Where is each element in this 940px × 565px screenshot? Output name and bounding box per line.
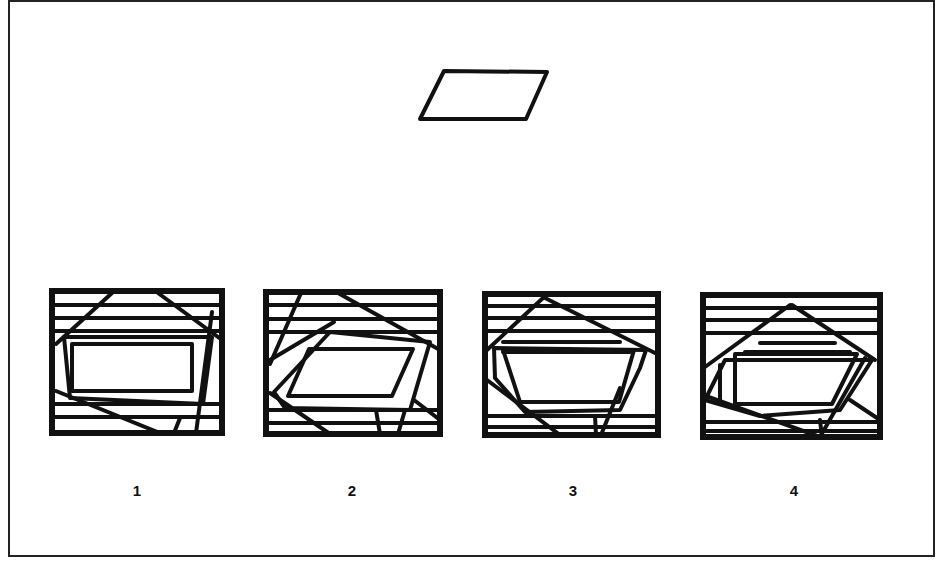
option-label-4: 4: [790, 482, 798, 499]
figure-line: [705, 305, 790, 367]
figure-line: [850, 400, 880, 420]
figure-shape: [72, 344, 192, 391]
figure-line: [820, 358, 865, 437]
target-parallelogram-shape: [420, 71, 547, 119]
answer-options: [52, 291, 880, 437]
figure-line: [376, 410, 380, 434]
figure-shape: [64, 337, 212, 404]
option-label-1: 1: [133, 482, 141, 499]
option-box-border: [52, 291, 222, 433]
option-box-border: [485, 294, 658, 435]
figure-shape: [503, 350, 634, 402]
option-label-3: 3: [569, 482, 577, 499]
option-label-2: 2: [348, 482, 356, 499]
option-figure-2[interactable]: [266, 292, 440, 434]
option-figure-3[interactable]: [485, 294, 658, 435]
puzzle-canvas: [0, 0, 940, 565]
option-figure-4[interactable]: [703, 295, 880, 437]
option-box-border: [703, 295, 880, 437]
option-figure-1[interactable]: [52, 291, 222, 433]
outer-frame: [9, 1, 934, 556]
